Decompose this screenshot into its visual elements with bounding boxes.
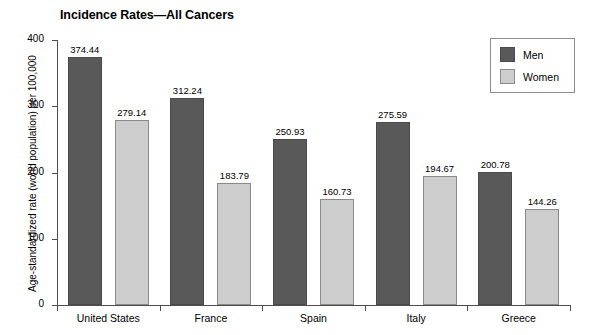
chart-legend: Men Women bbox=[490, 38, 575, 93]
bar-value-label: 275.59 bbox=[378, 109, 407, 120]
y-axis-tick: 300 bbox=[52, 106, 58, 107]
bar-value-label: 194.67 bbox=[425, 163, 454, 174]
bar-value-label: 279.14 bbox=[117, 107, 146, 118]
x-axis-category-label: Greece bbox=[501, 312, 535, 324]
bar-women: 279.14 bbox=[115, 120, 149, 305]
legend-item-men: Men bbox=[500, 47, 543, 62]
legend-label-men: Men bbox=[523, 49, 543, 61]
y-axis-tick-label: 200 bbox=[27, 166, 44, 177]
bar-value-label: 160.73 bbox=[322, 186, 351, 197]
x-axis-tick bbox=[160, 305, 161, 311]
bar-women: 160.73 bbox=[320, 199, 354, 305]
bar-women: 183.79 bbox=[217, 183, 251, 305]
bar-value-label: 250.93 bbox=[275, 126, 304, 137]
bar-value-label: 200.78 bbox=[481, 159, 510, 170]
bar-women: 144.26 bbox=[525, 209, 559, 305]
x-axis-tick bbox=[570, 305, 571, 311]
x-axis-line bbox=[57, 305, 570, 306]
x-axis-category-label: Italy bbox=[406, 312, 425, 324]
y-axis-tick: 100 bbox=[52, 239, 58, 240]
y-axis-tick-label: 300 bbox=[27, 99, 44, 110]
legend-swatch-men-icon bbox=[500, 47, 515, 62]
y-axis-tick-label: 100 bbox=[27, 232, 44, 243]
y-axis-tick: 400 bbox=[52, 40, 58, 41]
x-axis-category-label: United States bbox=[77, 312, 140, 324]
y-axis-tick-label: 400 bbox=[27, 33, 44, 44]
y-axis-tick-label: 0 bbox=[38, 298, 44, 309]
bar-men: 275.59 bbox=[376, 122, 410, 305]
x-axis-category-label: Spain bbox=[300, 312, 327, 324]
bar-chart-figure: Incidence Rates—All Cancers Age-standard… bbox=[0, 0, 591, 335]
x-axis-tick bbox=[57, 305, 58, 311]
bar-men: 200.78 bbox=[478, 172, 512, 305]
y-axis-tick: 200 bbox=[52, 173, 58, 174]
bar-value-label: 374.44 bbox=[70, 44, 99, 55]
x-axis-tick bbox=[262, 305, 263, 311]
x-axis-category-label: France bbox=[195, 312, 228, 324]
chart-title: Incidence Rates—All Cancers bbox=[60, 8, 234, 22]
bar-value-label: 312.24 bbox=[173, 85, 202, 96]
bar-men: 250.93 bbox=[273, 139, 307, 305]
bar-value-label: 183.79 bbox=[220, 170, 249, 181]
x-axis-tick bbox=[467, 305, 468, 311]
legend-swatch-women-icon bbox=[500, 69, 515, 84]
legend-label-women: Women bbox=[523, 71, 559, 83]
x-axis-tick bbox=[365, 305, 366, 311]
bar-men: 374.44 bbox=[68, 57, 102, 305]
bar-value-label: 144.26 bbox=[528, 196, 557, 207]
bar-men: 312.24 bbox=[170, 98, 204, 305]
legend-item-women: Women bbox=[500, 69, 559, 84]
bar-women: 194.67 bbox=[423, 176, 457, 305]
